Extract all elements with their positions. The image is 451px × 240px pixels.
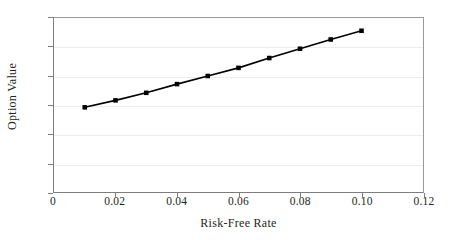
data-point-marker [298, 46, 303, 51]
data-point-marker [236, 66, 241, 71]
y-axis-title: Option Value [6, 63, 21, 130]
x-axis-tick-mark [239, 193, 240, 198]
data-point-marker [113, 98, 118, 103]
data-point-marker [175, 82, 180, 87]
data-point-marker [144, 91, 149, 96]
y-axis-tick-mark [48, 193, 53, 194]
x-axis-tick-mark [115, 193, 116, 198]
series-line [85, 31, 362, 108]
data-point-marker [205, 74, 210, 79]
x-axis-tick-mark [424, 193, 425, 198]
x-axis-tick-mark [300, 193, 301, 198]
data-point-marker [328, 37, 333, 42]
data-point-marker [82, 105, 87, 110]
data-point-marker [267, 56, 272, 61]
chart-figure: Option Value 051015202530 00.020.040.060… [0, 0, 451, 240]
data-point-marker [359, 28, 364, 33]
y-axis-title-container: Option Value [0, 0, 26, 193]
x-axis-title: Risk-Free Rate [53, 216, 424, 231]
plot-area [53, 17, 424, 193]
data-series-option-value [54, 18, 423, 192]
x-axis-tick-mark [362, 193, 363, 198]
x-axis-tick-label: 0 [50, 196, 56, 208]
x-axis-tick-mark [177, 193, 178, 198]
